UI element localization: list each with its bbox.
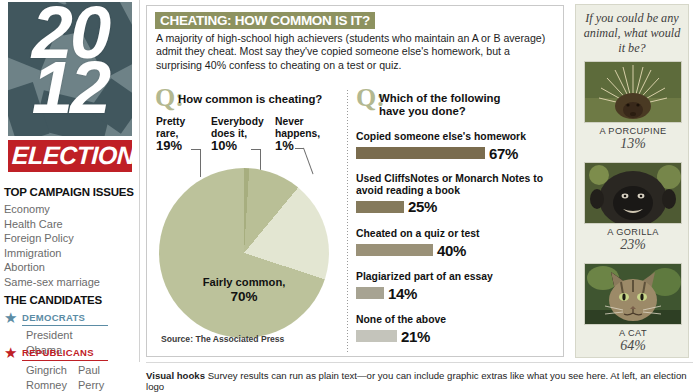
divider [22, 360, 108, 361]
bar-value: 25% [408, 198, 437, 215]
sidebar-divider [139, 0, 140, 362]
list-item: Same-sex marriage [4, 275, 100, 290]
animal-poll-panel: If you could be any animal, what would i… [575, 4, 689, 358]
animal-percentage: 13% [584, 136, 682, 152]
the-candidates-heading: THE CANDIDATES [4, 294, 102, 306]
list-item: Paul [78, 363, 122, 378]
pie-callout-label: Pretty rare, [156, 116, 185, 139]
footer-lead: Visual hooks [146, 370, 205, 381]
sidebar: 20 12 ELECTION TOP CAMPAIGN ISSUES Econo… [0, 0, 140, 386]
page-title: CHEATING: HOW COMMON IS IT? [160, 13, 370, 28]
divider [22, 325, 108, 326]
democrats-label: DEMOCRATS [22, 312, 85, 323]
footer-divider [146, 362, 693, 363]
animal-panel-title: If you could be any animal, what would i… [581, 11, 683, 56]
porcupine-photo [584, 61, 682, 123]
bar-label: Used CliffsNotes or Monarch Notes to avo… [356, 173, 556, 196]
bar-item: Cheated on a quiz or test 40% [356, 228, 556, 259]
cat-photo-illustration [585, 264, 681, 324]
logo-year-bottom: 12 [8, 61, 132, 116]
main-infographic-panel: CHEATING: HOW COMMON IS IT? A majority o… [146, 5, 564, 357]
bar-value: 40% [437, 242, 466, 259]
pie-chart-question: How common is cheating? [178, 93, 343, 106]
source-attribution: Source: The Associated Press [161, 334, 284, 345]
pie-callout-label: Never happens, [275, 116, 320, 139]
election-logo-graphic: 20 12 [8, 2, 132, 136]
leader-line-elbow [295, 148, 304, 149]
bar-fill [356, 244, 433, 256]
list-item: Perry [78, 378, 122, 392]
bar-value: 21% [401, 328, 430, 345]
list-item: Health Care [4, 217, 100, 232]
list-item: Abortion [4, 260, 100, 275]
bar-item: Plagiarized part of an essay 14% [356, 271, 556, 302]
bar-value: 67% [489, 145, 518, 162]
pie-callout-pretty-rare: Pretty rare, 19% [156, 116, 204, 152]
footer-caption: Visual hooks Survey results can run as p… [146, 370, 693, 392]
bar-chart-question: Which of the following have you done? [379, 92, 529, 117]
list-item: Immigration [4, 246, 100, 261]
column-divider [347, 90, 348, 352]
bar-fill [356, 330, 397, 342]
pie-main-slice-label: Fairly common, [203, 276, 286, 288]
bar-label: Copied someone else's homework [356, 131, 556, 143]
intro-paragraph: A majority of high-school high achievers… [156, 32, 552, 72]
bar-item: Copied someone else's homework 67% [356, 131, 556, 162]
footer-text: Survey results can run as plain text—or … [146, 370, 687, 392]
leader-line-elbow [191, 149, 201, 150]
animal-name: A GORILLA [584, 227, 682, 237]
bar-item: Used CliffsNotes or Monarch Notes to avo… [356, 173, 556, 215]
cat-photo [584, 263, 682, 325]
star-icon: ★ [4, 347, 17, 359]
list-item: Economy [4, 202, 100, 217]
bar-label: Cheated on a quiz or test [356, 228, 556, 240]
animal-percentage: 23% [584, 237, 682, 253]
republican-candidates: Gingrich Paul Romney Perry [26, 363, 122, 392]
leader-line-elbow [251, 149, 261, 150]
pie-chart: Fairly common, 70% [159, 168, 329, 338]
top-campaign-issues-heading: TOP CAMPAIGN ISSUES [4, 186, 134, 198]
animal-name: A PORCUPINE [584, 126, 682, 136]
pie-callout-label: Everybody does it, [211, 116, 264, 139]
bar-label: None of the above [356, 314, 556, 326]
republicans-label: REPUBLICANS [22, 347, 94, 358]
logo-year: 20 12 [8, 2, 132, 136]
porcupine-photo-illustration [585, 62, 681, 122]
animal-item-porcupine: A PORCUPINE 13% [584, 61, 682, 152]
list-item: Foreign Policy [4, 231, 100, 246]
pie-main-slice-value: 70% [159, 290, 329, 304]
pie-chart-section: Q: How common is cheating? Pretty rare, … [155, 90, 345, 352]
election-banner: ELECTION [8, 140, 132, 172]
list-item: Romney [26, 378, 70, 392]
animal-item-gorilla: A GORILLA 23% [584, 162, 682, 253]
campaign-issues-list: Economy Health Care Foreign Policy Immig… [4, 202, 100, 290]
headline-band: CHEATING: HOW COMMON IS IT? [155, 12, 375, 29]
gorilla-photo [584, 162, 682, 224]
animal-item-cat: A CAT 64% [584, 263, 682, 354]
pie-callout-everybody-does-it: Everybody does it, 10% [211, 116, 271, 152]
gorilla-photo-illustration [585, 163, 681, 223]
star-icon: ★ [4, 312, 17, 324]
bar-item: None of the above 21% [356, 314, 556, 345]
pie-callout-value: 10% [211, 140, 271, 152]
bar-fill [356, 287, 384, 299]
list-item: Gingrich [26, 363, 70, 378]
bar-value: 14% [388, 285, 417, 302]
pie-slices [159, 168, 329, 338]
bar-label: Plagiarized part of an essay [356, 271, 556, 283]
animal-percentage: 64% [584, 338, 682, 354]
pie-callout-never-happens: Never happens, 1% [275, 116, 333, 152]
animal-name: A CAT [584, 328, 682, 338]
pie-callout-value: 19% [156, 140, 204, 152]
pie-center-label: Fairly common, 70% [159, 276, 329, 303]
bar-fill [356, 147, 485, 159]
bar-fill [356, 201, 404, 213]
election-banner-label: ELECTION [11, 141, 132, 170]
